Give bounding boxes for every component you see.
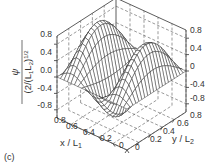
x-tick: 0 — [119, 140, 124, 150]
z-tick-left: -0.4 — [37, 83, 52, 93]
z-tick-right: 0.4 — [190, 43, 202, 53]
z-tick-left: 0.8 — [40, 29, 52, 39]
wireframe-surface — [57, 20, 186, 116]
z-tick-right: -0.4 — [190, 79, 205, 89]
y-tick: 0 — [135, 142, 140, 152]
y-axis-label: y / L2 — [172, 133, 194, 145]
x-tick: 0.8 — [54, 115, 66, 125]
y-tick: 0.6 — [177, 118, 189, 128]
x-tick: 0.6 — [66, 121, 78, 131]
y-axis-ticks: 0 0.2 0.4 0.6 0.8 — [135, 110, 202, 152]
z-tick-left: -0.8 — [37, 100, 52, 110]
x-axis-label: x / L1 — [60, 137, 82, 149]
z-tick-right: 0.8 — [190, 25, 202, 35]
z-tick-right: -0.8 — [190, 93, 205, 103]
z-label-denominator: (2/(L1L2)1/2 — [22, 50, 34, 94]
panel-label: (c) — [4, 152, 15, 162]
surface-plot: 0.8 0.4 0.0 -0.4 -0.8 0.8 0.4 0 -0.4 -0.… — [0, 0, 211, 163]
z-axis-left-ticks: 0.8 0.4 0.0 -0.4 -0.8 — [37, 29, 52, 110]
y-tick: 0.2 — [150, 134, 162, 144]
z-tick-left: 0.4 — [40, 47, 52, 57]
z-tick-right: 0 — [190, 61, 195, 71]
z-axis-label: ψ (2/(L1L2)1/2 — [9, 40, 34, 104]
z-label-numerator: ψ — [9, 68, 20, 75]
y-tick: 0.8 — [190, 110, 202, 120]
x-tick: 0.2 — [100, 133, 112, 143]
x-tick: 0.4 — [83, 127, 95, 137]
z-axis-right-ticks: 0.8 0.4 0 -0.4 -0.8 — [190, 25, 205, 103]
z-tick-left: 0.0 — [40, 65, 52, 75]
